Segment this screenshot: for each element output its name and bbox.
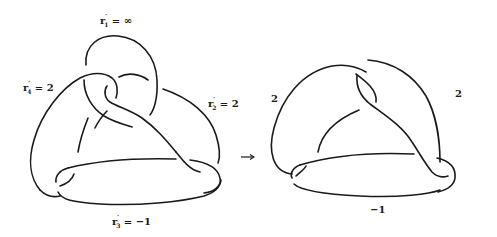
knot-surgery-figure: r′1 = ∞ r′4 = 2 r′2 = 2 r′3 = −1 2 2 −1: [0, 0, 497, 237]
transition-arrow: [241, 155, 254, 160]
label-r1-infinity: r′1 = ∞: [100, 14, 132, 28]
label-r4-prime: ′: [28, 79, 30, 88]
label-r4-two: r′4 = 2: [23, 81, 54, 95]
label-r4-eq: =: [31, 82, 46, 93]
label-r2-index: 2: [212, 104, 216, 111]
strand-bottom-left-curl: [56, 168, 74, 186]
label-right-bottom-minus-one: −1: [370, 205, 385, 215]
strand-middle-horizontal: [68, 159, 176, 168]
label-r4-index: 4: [27, 88, 31, 95]
strand-top-right-segment: [119, 74, 148, 80]
label-r2-value: 2: [232, 98, 239, 109]
knot-diagram-svg: [0, 0, 497, 237]
label-r3-prime: ′: [117, 213, 119, 222]
strand-right-middle-right: [437, 158, 455, 192]
strand-diagonal-right: [176, 152, 200, 172]
label-r1-eq: =: [108, 15, 123, 26]
label-right-right-two: 2: [455, 89, 462, 99]
label-r3-index: 3: [116, 222, 120, 229]
label-r2-two: r′2 = 2: [208, 97, 239, 111]
label-r3-eq: =: [120, 216, 135, 227]
strand-right-inner-hook: [357, 75, 448, 177]
strand-right-inner-left: [318, 110, 359, 152]
label-r1-value: ∞: [124, 15, 132, 26]
strand-inner-curl: [84, 80, 132, 127]
label-r3-minus-one: r′3 = −1: [112, 215, 151, 229]
strand-right-bottom-long: [294, 184, 440, 197]
strand-middle-right: [190, 160, 220, 193]
label-r2-eq: =: [216, 98, 231, 109]
label-r2-prime: ′: [213, 95, 215, 104]
strand-inner-hook: [105, 86, 176, 152]
label-r1-prime: ′: [105, 12, 107, 21]
label-right-left-two: 2: [271, 94, 278, 104]
label-r1-index: 1: [104, 21, 108, 28]
label-r3-value: −1: [136, 216, 151, 227]
strand-right-left-arc: [271, 65, 366, 174]
left-link-diagram: [31, 36, 221, 205]
strand-inner-diagonal-left-lower: [78, 118, 88, 152]
strand-right-middle-horizontal: [300, 153, 414, 165]
strand-right-bottom-left-curl: [291, 165, 306, 178]
strand-bottom-long: [58, 180, 221, 205]
right-link-diagram: [271, 60, 455, 197]
strand-left-arc-lower: [40, 190, 60, 197]
label-r4-value: 2: [47, 82, 54, 93]
